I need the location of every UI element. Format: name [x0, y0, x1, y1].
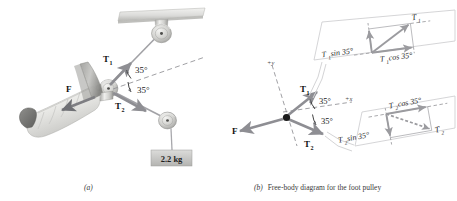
label-T2-a: T 2	[115, 101, 125, 113]
caption-b-marker: (b)	[254, 183, 263, 192]
svg-text:T: T	[388, 101, 394, 111]
label-T2-b: T 2	[304, 139, 314, 151]
origin-point	[283, 114, 290, 121]
callout-top-leader	[309, 62, 322, 96]
angle-label-upper-a: 35°	[135, 65, 148, 75]
caption-a-text: (a)	[84, 183, 93, 192]
axis-y-label: +y	[267, 59, 274, 66]
label-F-a: F	[66, 84, 72, 94]
label-T1-a-sub: 1	[110, 60, 113, 66]
label-T1-a: T 1	[103, 54, 113, 66]
callout-top-leader-2	[313, 64, 326, 98]
label-T1-b: T 1	[300, 84, 310, 96]
svg-text:T: T	[337, 135, 343, 145]
caption-panel-a: (a)	[84, 183, 93, 192]
hanging-mass: 2.2 kg	[151, 150, 192, 166]
caption-panel-b: (b) Free-body diagram for the foot pulle…	[254, 183, 381, 192]
label-F-b: F	[232, 126, 238, 136]
force-F-arrow-b	[240, 119, 283, 131]
callout-top-cos-label: T 1 cos 35°	[379, 50, 414, 65]
mass-label: 2.2 kg	[161, 154, 183, 164]
angle-arc-upper-b	[310, 100, 315, 110]
axis-x-label: +x	[345, 95, 352, 102]
svg-text:cos 35°: cos 35°	[388, 50, 414, 62]
label-T2-b-sub: 2	[311, 145, 314, 151]
svg-text:sin 35°: sin 35°	[330, 46, 354, 58]
tension-2-arrow-b	[288, 119, 323, 134]
cord-mass	[171, 129, 172, 151]
svg-text:T: T	[379, 54, 385, 64]
lower-pulley	[159, 112, 177, 129]
label-T1-b-main: T	[300, 84, 306, 94]
panel-b: +y +x 35° 35° T 1 T 2 F	[232, 10, 455, 154]
label-T2-a-sub: 2	[122, 107, 125, 113]
angle-label-lower-a: 35°	[137, 85, 150, 95]
label-T1-a-main: T	[103, 54, 109, 64]
angle-arc-upper-a	[127, 70, 132, 79]
label-T2-a-main: T	[115, 101, 121, 111]
reference-axis-dashed-a	[113, 57, 205, 89]
panel-a: T 1 T 2 F 35° 35° 2.2 kg	[19, 8, 205, 166]
callout-top: T 1 T 1 sin 35° T 1 cos 35°	[309, 10, 455, 98]
traction-figure: T 1 T 2 F 35° 35° 2.2 kg +y +x	[0, 0, 457, 201]
angle-label-lower-b: 35°	[321, 116, 333, 126]
tension-1-arrow-b	[287, 92, 317, 116]
angle-arc-lower-b	[313, 115, 317, 126]
caption-b-text: Free-body diagram for the foot pulley	[268, 183, 382, 192]
upper-pulley	[152, 24, 172, 43]
angle-label-upper-b: 35°	[319, 96, 331, 106]
label-T2-b-main: T	[304, 139, 310, 149]
axis-y-dashed	[272, 65, 297, 146]
